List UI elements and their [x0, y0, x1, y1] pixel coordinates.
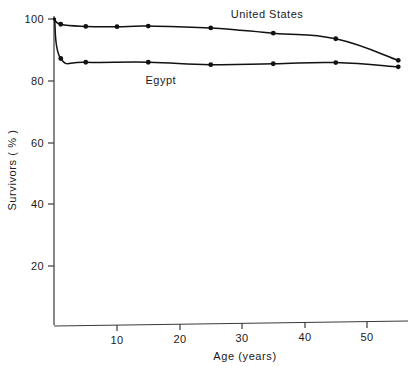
x-tick-label-10: 10	[110, 334, 123, 346]
survivorship-chart: 100 80 60 40 20 10 20 30 40 50 Age (year…	[0, 0, 417, 369]
data-point	[396, 58, 401, 63]
x-tick-label-30: 30	[235, 332, 248, 344]
series-markers-united-states	[53, 17, 401, 62]
y-tick-label-60: 60	[31, 137, 44, 149]
data-point	[146, 60, 151, 65]
x-axis-line	[54, 321, 408, 326]
y-tick-label-100: 100	[24, 13, 44, 25]
x-tick-label-50: 50	[360, 331, 373, 343]
series-label-egypt: Egypt	[145, 74, 176, 86]
y-tick-label-20: 20	[31, 260, 44, 272]
data-point	[208, 62, 213, 67]
y-tick-label-80: 80	[31, 75, 44, 87]
y-axis-title: Survivors ( % )	[6, 129, 18, 210]
series-line-united-states	[55, 19, 399, 60]
data-point	[333, 36, 338, 41]
y-axis-ticks	[48, 19, 54, 266]
data-point	[146, 24, 151, 29]
chart-canvas: 100 80 60 40 20 10 20 30 40 50 Age (year…	[0, 0, 417, 369]
data-point	[396, 64, 401, 69]
series-markers-egypt	[53, 17, 401, 69]
data-point	[271, 61, 276, 66]
data-point	[58, 22, 63, 27]
x-axis-title: Age (years)	[213, 350, 276, 362]
x-tick-label-20: 20	[173, 333, 186, 345]
data-point	[115, 24, 120, 29]
data-point	[271, 31, 276, 36]
y-tick-label-40: 40	[31, 198, 44, 210]
data-point	[83, 24, 88, 29]
data-point	[83, 60, 88, 65]
data-point	[58, 56, 63, 61]
x-axis-ticks	[117, 322, 367, 331]
x-tick-label-40: 40	[298, 331, 311, 343]
data-point	[53, 17, 56, 20]
data-point	[333, 60, 338, 65]
data-point	[208, 26, 213, 31]
series-label-united-states: United States	[231, 8, 304, 20]
